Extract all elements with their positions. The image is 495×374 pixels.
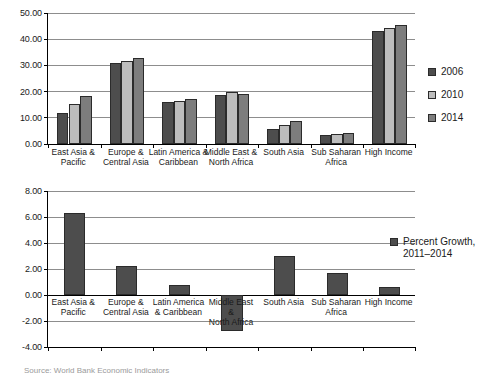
legend-swatch-icon [428, 68, 436, 76]
y-axis-tick [44, 91, 48, 92]
legend-swatch-icon [428, 91, 436, 99]
gridline [48, 13, 415, 14]
x-axis-category-label: South Asia [253, 297, 314, 307]
x-axis-line [48, 347, 415, 348]
x-axis-tick [363, 347, 364, 351]
y-axis-tick-label: 8.00 [25, 187, 42, 196]
x-axis-tick [153, 347, 154, 351]
y-axis-tick-label: 0.00 [25, 291, 42, 300]
gridline [48, 243, 415, 244]
bar [226, 92, 238, 144]
y-axis-tick [44, 321, 48, 322]
x-axis-category-label: Middle East & North Africa [201, 147, 262, 167]
x-axis-category-label: Sub Saharan Africa [306, 147, 367, 167]
gridline [48, 269, 415, 270]
y-axis-labels-top: 0.0010.0020.0030.0040.0050.00 [0, 0, 46, 180]
y-axis-tick-label: -2.00 [22, 317, 42, 326]
x-axis-category-label: East Asia & Pacific [43, 297, 104, 317]
y-axis-tick-label: 40.00 [20, 35, 42, 44]
y-axis-labels-bottom: -4.00-2.000.002.004.006.008.00 [0, 180, 46, 374]
legend-item-label: Percent Growth, 2011–2014 [403, 236, 475, 260]
gridline [48, 65, 415, 66]
legend-item-label: 2006 [441, 66, 463, 78]
y-axis-tick-label: 2.00 [25, 265, 42, 274]
bar [174, 101, 186, 144]
bar [64, 213, 85, 295]
x-axis-tick [311, 347, 312, 351]
bar [162, 102, 174, 144]
bar [343, 133, 355, 144]
x-axis-tick [48, 347, 49, 351]
source-caption: Source: World Bank Economic Indicators [24, 366, 169, 374]
legend-swatch-icon [428, 114, 436, 122]
x-axis-category-label: South Asia [253, 147, 314, 157]
bar [372, 31, 384, 144]
y-axis-tick [44, 13, 48, 14]
legend-swatch-icon [390, 238, 398, 246]
legend-item: 2006 [428, 66, 463, 78]
x-axis-category-label: Latin America & Caribbean [148, 147, 209, 167]
x-axis-category-label: Latin America & Caribbean [148, 297, 209, 317]
y-axis-tick [44, 269, 48, 270]
x-axis-line [48, 144, 415, 145]
y-axis-tick-label: 6.00 [25, 213, 42, 222]
gridline [48, 217, 415, 218]
bar [121, 61, 133, 144]
bar [290, 121, 302, 144]
x-axis-tick [415, 347, 416, 351]
bar [395, 25, 407, 144]
x-axis-tick [206, 347, 207, 351]
x-axis-category-label: High Income [358, 297, 419, 307]
y-axis-tick [44, 39, 48, 40]
bar [185, 99, 197, 144]
x-axis-category-label: Sub Saharan Africa [306, 297, 367, 317]
bar [267, 129, 279, 144]
bar [110, 63, 122, 144]
y-axis-tick-label: 50.00 [20, 9, 42, 18]
y-axis-tick [44, 243, 48, 244]
bar [57, 113, 69, 144]
y-axis-tick-label: -4.00 [22, 343, 42, 352]
bar [69, 104, 81, 144]
bar-chart-percent-growth: -4.00-2.000.002.004.006.008.00 East Asia… [0, 180, 495, 374]
bar [331, 134, 343, 144]
bar [379, 287, 400, 295]
legend-item-label: 2014 [441, 112, 463, 124]
y-axis-tick [44, 191, 48, 192]
x-axis-tick [258, 347, 259, 351]
legend-item-label: 2010 [441, 89, 463, 101]
legend-item: Percent Growth, 2011–2014 [390, 236, 475, 260]
bar [215, 95, 227, 144]
x-axis-category-label: Europe & Central Asia [96, 297, 157, 317]
y-axis-tick [44, 217, 48, 218]
bar [327, 273, 348, 295]
bar [116, 266, 137, 295]
x-axis-category-label: Middle East & North Africa [201, 297, 262, 327]
x-axis-category-label: Europe & Central Asia [96, 147, 157, 167]
y-axis-tick [44, 295, 48, 296]
y-axis-tick-label: 4.00 [25, 239, 42, 248]
bar [133, 58, 145, 144]
bar [384, 28, 396, 144]
y-axis-tick-label: 30.00 [20, 61, 42, 70]
y-axis-tick [44, 65, 48, 66]
legend-bottom: Percent Growth, 2011–2014 [390, 236, 475, 271]
grouped-bar-chart-percent-by-year: 0.0010.0020.0030.0040.0050.00 East Asia … [0, 0, 495, 180]
legend-item: 2014 [428, 112, 463, 124]
gridline [48, 191, 415, 192]
bar [80, 96, 92, 144]
y-axis-tick-label: 10.00 [20, 113, 42, 122]
y-axis-tick-label: 20.00 [20, 87, 42, 96]
bar [169, 285, 190, 295]
bar [274, 256, 295, 295]
x-axis-category-label: East Asia & Pacific [43, 147, 104, 167]
x-axis-tick [101, 347, 102, 351]
gridline [48, 39, 415, 40]
legend-top: 200620102014 [428, 66, 463, 135]
y-axis-tick-label: 0.00 [25, 140, 42, 149]
x-axis-category-label: High Income [358, 147, 419, 157]
bar [238, 94, 250, 144]
legend-item: 2010 [428, 89, 463, 101]
plot-area-top [47, 13, 415, 144]
bar [279, 125, 291, 144]
